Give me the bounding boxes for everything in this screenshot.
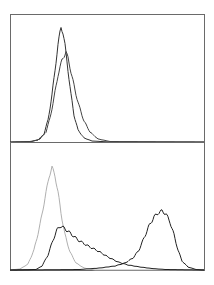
panel-frame <box>11 143 205 271</box>
series-sample-broad <box>10 226 204 270</box>
series-isotype-control <box>10 166 204 270</box>
series-histogram-1 <box>10 28 204 143</box>
panel-frame <box>11 15 205 143</box>
figure-canvas <box>0 0 214 285</box>
flow-cytometry-figure <box>0 0 214 285</box>
series-sample-shifted <box>10 210 204 270</box>
histogram-panel-bottom <box>10 143 205 271</box>
series-histogram-2 <box>10 52 204 143</box>
histogram-panel-top <box>10 15 205 143</box>
